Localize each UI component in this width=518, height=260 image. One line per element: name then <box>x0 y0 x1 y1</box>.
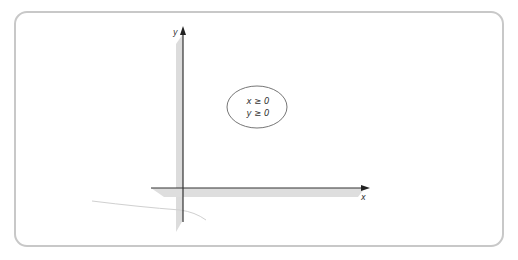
coordinate-diagram: y x x ≥ 0 y ≥ 0 <box>0 0 518 260</box>
y-axis-label: y <box>172 28 178 37</box>
x-axis-arrow-icon <box>361 185 370 191</box>
condition-y: y ≥ 0 <box>246 108 270 118</box>
x-axis-label: x <box>360 193 366 202</box>
region-ellipse <box>227 86 287 128</box>
y-axis-shadow <box>176 34 183 232</box>
faint-curve <box>92 201 206 220</box>
condition-x: x ≥ 0 <box>246 96 270 106</box>
y-axis-arrow-icon <box>180 26 186 35</box>
